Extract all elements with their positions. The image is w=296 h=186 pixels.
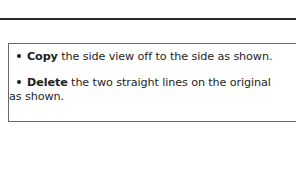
step-text: the side view off to the side as shown.: [58, 50, 273, 63]
bullet-icon: [17, 80, 21, 84]
step-text: the two straight lines on the original: [68, 76, 271, 89]
step-text-continuation: as shown.: [9, 90, 271, 104]
instruction-step-copy: Copy the side view off to the side as sh…: [16, 50, 272, 64]
instruction-step-delete: Delete the two straight lines on the ori…: [16, 76, 271, 104]
instruction-box: Copy the side view off to the side as sh…: [8, 43, 296, 122]
step-keyword: Copy: [27, 50, 58, 63]
step-keyword: Delete: [27, 76, 68, 89]
header-divider: [0, 18, 296, 20]
bullet-icon: [17, 54, 21, 58]
